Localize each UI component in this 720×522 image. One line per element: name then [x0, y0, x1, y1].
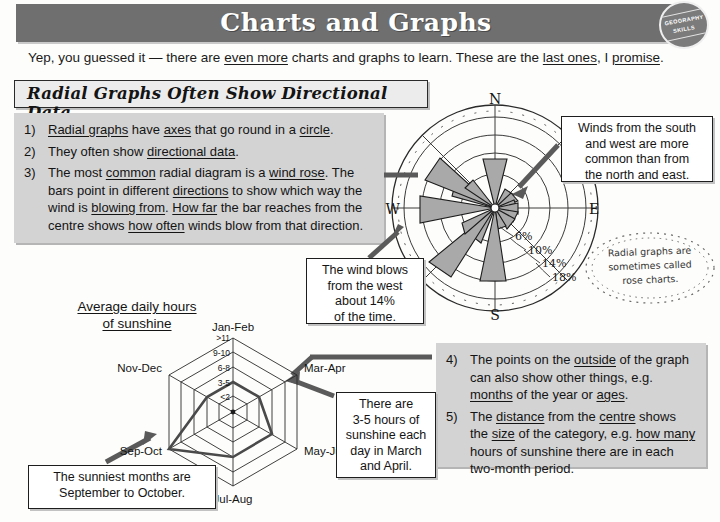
point-bottom-item-text: centre	[599, 409, 635, 424]
arrow-march-callout	[292, 380, 334, 396]
arrow-point4-head	[285, 371, 300, 385]
wind-rose-petal-s	[480, 208, 506, 281]
point-bottom-item-text: of the year or	[513, 387, 597, 402]
wind-rose-petal-wsw	[462, 208, 495, 234]
radar-ring-3	[194, 367, 272, 457]
point-top-item-text: axes	[164, 122, 191, 137]
radar-tick-6-8: 6-8	[218, 363, 231, 373]
sunshine-chart-title: Average daily hours of sunshine	[62, 298, 212, 332]
wind-rose-petal-se	[495, 208, 515, 229]
radar-ring-5	[169, 338, 297, 486]
wind-rose-petal-ese	[495, 208, 518, 222]
point-top-item-number: 2)	[24, 143, 36, 161]
radial-graph-points-panel: 1)Radial graphs have axes that go round …	[14, 113, 384, 243]
point-bottom-item-text: how many	[636, 426, 695, 441]
radar-data-polygon	[169, 382, 272, 457]
point-top-item-text: directional data	[147, 144, 235, 159]
wind-rose-pct-leader-10	[510, 238, 526, 250]
point-top-item-text: how often	[128, 218, 184, 233]
wind-rose-petal-e	[495, 203, 518, 214]
point-top-item-number: 1)	[24, 121, 36, 139]
wind-rose-spoke-nw-se	[422, 135, 568, 281]
radar-label-nov-dec: Nov-Dec	[117, 362, 162, 374]
point-bottom-item-text: The points on the	[470, 352, 574, 367]
point-bottom-item-text: size	[492, 426, 515, 441]
point-top-item-number: 3)	[24, 164, 36, 182]
radar-tick-gt11: >11	[216, 333, 230, 343]
radar-label-jul-aug: Jul-Aug	[214, 493, 253, 505]
wind-rose-petal-nne	[495, 189, 514, 208]
rose-note-text: Radial graphs are sometimes called rose …	[595, 243, 704, 289]
intro-emphasis-2: last ones	[543, 50, 597, 65]
callout-march-line-1: There are	[342, 397, 430, 413]
point-top-item-text: wind rose	[269, 165, 325, 180]
radar-spoke-may-jun	[233, 412, 297, 449]
intro-emphasis-3: promise	[612, 50, 660, 65]
callout-west-line-2: from the west	[312, 279, 418, 295]
wind-rose-ring-18	[404, 117, 586, 299]
point-bottom-item-text: outside	[574, 352, 616, 367]
point-top-item-text: They often show	[48, 144, 147, 159]
point-top-item-text: The most	[48, 165, 106, 180]
wind-rose-petal-nnw	[465, 180, 495, 208]
point-top-item-text: directions	[173, 183, 229, 198]
radar-centre	[231, 410, 236, 415]
wind-rose-label-east: E	[589, 201, 599, 217]
radar-ring-2	[207, 382, 259, 442]
callout-west-line-1: The wind blows	[312, 263, 418, 279]
point-top-item: 2)They often show directional data.	[48, 143, 374, 161]
point-bottom-item: 5)The distance from the centre shows the…	[470, 408, 696, 478]
callout-winds-line-2: and west are more	[567, 137, 707, 153]
radar-tick-3-5: 3-5	[218, 378, 231, 388]
arrow-winds-callout-head	[512, 186, 528, 199]
numbered-list-bottom: 4)The points on the outside of the graph…	[436, 343, 706, 478]
callout-wind-from-west: The wind blows from the west about 14% o…	[306, 258, 424, 324]
arrow-winds-callout	[519, 145, 558, 187]
wind-rose-petal-sse	[495, 208, 506, 229]
radar-spoke-nov-dec	[169, 375, 233, 412]
wind-rose-petal-ssw	[472, 208, 495, 243]
arrow-west-callout-head	[391, 224, 404, 239]
point-top-item-text: radial diagram is a	[156, 165, 269, 180]
wind-rose-pct-leader-14	[524, 250, 540, 263]
arrow-point4-bend	[292, 357, 312, 375]
wind-rose-petals	[420, 158, 518, 281]
wind-rose-label-south: S	[490, 307, 500, 323]
radar-ring-4	[181, 352, 285, 472]
point-bottom-item-text: months	[470, 387, 513, 402]
wind-rose-label-north: N	[489, 91, 501, 107]
wind-rose-petal-ne	[495, 193, 518, 208]
wind-rose-pct-6: 6%	[515, 230, 532, 243]
wind-rose-pct-leader-6	[500, 227, 513, 236]
point-bottom-item-text: The	[470, 409, 496, 424]
wind-rose-petal-sw	[429, 208, 495, 277]
point-top-item-text: .	[235, 144, 239, 159]
intro-text-1: Yep, you guessed it — there are	[28, 50, 224, 65]
radar-label-mar-apr: Mar-Apr	[304, 362, 346, 374]
radar-tick-lt2: <2	[220, 392, 230, 402]
wind-rose-petal-wnw	[452, 185, 495, 208]
point-top-item-text: winds blow from that direction.	[185, 218, 363, 233]
wind-rose-pct-14: 14%	[542, 257, 566, 270]
callout-west-line-4: of the time.	[312, 310, 418, 326]
page-root: Charts and Graphs GEOGRAPHY SKILLS Yep, …	[0, 0, 720, 522]
point-bottom-item-number: 4)	[446, 351, 458, 369]
callout-winds-line-4: the north and east.	[567, 168, 707, 184]
point-top-item-text: circle	[300, 122, 330, 137]
callout-sunniest-line-2: September to October.	[34, 486, 210, 502]
wind-rose-ring-10	[440, 153, 550, 263]
sunshine-title-line-2: of sunshine	[102, 316, 171, 331]
wind-rose-ring-14	[422, 135, 568, 281]
wind-rose-label-west: W	[386, 201, 401, 217]
intro-paragraph: Yep, you guessed it — there are even mor…	[28, 50, 693, 65]
intro-text-4: .	[660, 50, 664, 65]
rose-charts-note: Radial graphs are sometimes called rose …	[586, 232, 714, 304]
radar-label-jan-feb: Jan-Feb	[212, 321, 254, 333]
wind-rose-spoke-ne-sw	[422, 135, 568, 281]
point-top-item-text: .	[330, 122, 334, 137]
point-bottom-item-text: ages	[596, 387, 624, 402]
callout-winds-south-west: Winds from the south and west are more c…	[561, 116, 713, 182]
point-top-item: 3)The most common radial diagram is a wi…	[48, 164, 374, 234]
callout-winds-line-1: Winds from the south	[567, 121, 707, 137]
callout-march-line-3: sunshine each	[342, 428, 430, 444]
